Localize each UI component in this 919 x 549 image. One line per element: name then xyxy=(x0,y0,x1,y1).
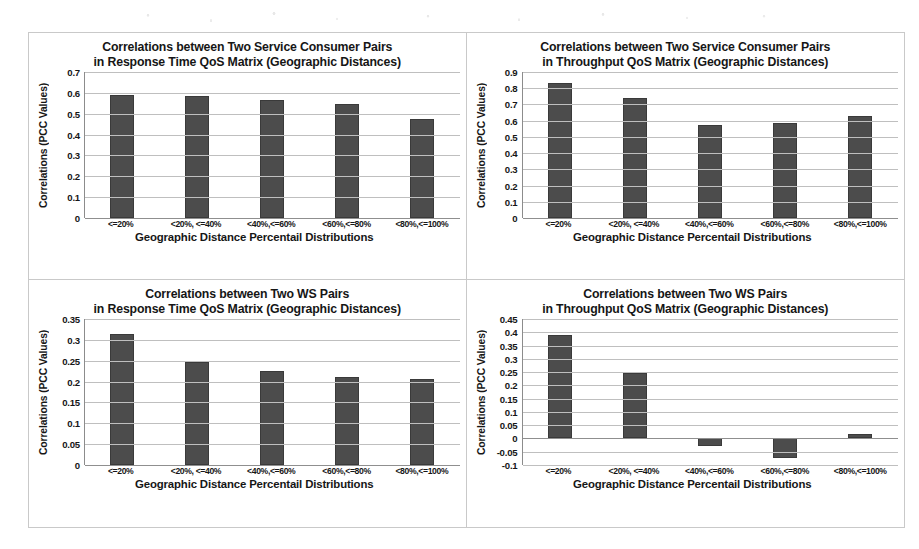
chart-title-line-2: in Response Time QoS Matrix (Geographic … xyxy=(35,55,460,70)
y-axis-tick-label: 0.7 xyxy=(505,99,518,110)
gridline xyxy=(85,423,460,424)
bar-slot xyxy=(748,319,823,465)
bar-slot xyxy=(385,319,460,465)
gridline xyxy=(523,332,899,333)
y-axis-label: Correlations (PCC Values) xyxy=(473,319,488,465)
bar-slot xyxy=(523,319,598,465)
y-axis-tick-label: 0.8 xyxy=(505,83,518,94)
bar[interactable] xyxy=(260,100,284,218)
y-axis-tick-label: 0.5 xyxy=(505,131,518,142)
bar-slot xyxy=(673,72,748,218)
y-axis-tick-label: 0.2 xyxy=(67,171,80,182)
zero-gridline xyxy=(523,218,899,219)
bar-slot xyxy=(85,319,160,465)
bar-slot xyxy=(235,319,310,465)
bar-slot xyxy=(310,72,385,218)
bar[interactable] xyxy=(335,377,359,465)
y-axis-tick-label: 0.25 xyxy=(62,355,80,366)
bar-series xyxy=(523,319,899,465)
y-axis-tick-label: 0.3 xyxy=(505,353,518,364)
bar[interactable] xyxy=(185,362,209,465)
gridline xyxy=(85,176,460,177)
bar[interactable] xyxy=(110,334,134,465)
y-axis-tick-label: 0.1 xyxy=(67,418,80,429)
zero-gridline xyxy=(85,465,460,466)
chart-title-line-1: Correlations between Two WS Pairs xyxy=(473,287,899,302)
gridline xyxy=(523,385,899,386)
bar[interactable] xyxy=(698,438,722,446)
gridline xyxy=(523,372,899,373)
y-axis-label: Correlations (PCC Values) xyxy=(35,319,50,465)
x-axis-tick-label: <40%,<=60% xyxy=(672,466,748,476)
x-axis-tick-label: <60%,<=80% xyxy=(747,219,823,229)
gridline xyxy=(85,155,460,156)
gridline xyxy=(523,425,899,426)
x-axis: <=20%<20%, <=40%<40%,<=60%<60%,<=80%<80%… xyxy=(473,466,899,476)
gridline xyxy=(85,114,460,115)
plot-area xyxy=(84,72,460,218)
chart-title-line-2: in Response Time QoS Matrix (Geographic … xyxy=(35,302,460,317)
bar[interactable] xyxy=(410,379,434,465)
plot-area xyxy=(522,72,899,218)
gridline xyxy=(85,444,460,445)
gridline xyxy=(523,359,899,360)
y-axis-ticks: 0.350.30.250.20.150.10.050 xyxy=(50,319,84,465)
bar-slot xyxy=(160,319,235,465)
gridline xyxy=(85,361,460,362)
gridline xyxy=(523,104,899,105)
bar-slot xyxy=(160,72,235,218)
chart-title-line-1: Correlations between Two Service Consume… xyxy=(35,40,460,55)
x-axis-tick-label: <60%,<=80% xyxy=(309,219,384,229)
chart-title-line-1: Correlations between Two WS Pairs xyxy=(35,287,460,302)
bar[interactable] xyxy=(773,438,797,458)
gridline xyxy=(523,399,899,400)
x-axis-tick-labels: <=20%<20%, <=40%<40%,<=60%<60%,<=80%<80%… xyxy=(521,466,899,476)
bar-slot xyxy=(748,72,823,218)
y-axis-label: Correlations (PCC Values) xyxy=(35,72,50,218)
x-axis-tick-label: <=20% xyxy=(521,466,597,476)
y-axis-tick-label: 0.1 xyxy=(67,192,80,203)
x-axis-tick-label: <20%, <=40% xyxy=(158,219,233,229)
chart-body: Correlations (PCC Values) 0.90.80.70.60.… xyxy=(473,72,899,218)
y-axis-tick-label: -0.05 xyxy=(497,446,518,457)
zero-gridline xyxy=(85,218,460,219)
y-axis-ticks: 0.450.40.350.30.250.20.150.10.050-0.05-0… xyxy=(488,319,522,465)
zero-gridline xyxy=(523,438,899,439)
x-axis-tick-label: <80%,<=100% xyxy=(823,219,899,229)
x-axis-tick-label: <40%,<=60% xyxy=(672,219,748,229)
x-axis-tick-label: <20%, <=40% xyxy=(596,219,672,229)
x-axis-tick-label: <40%,<=60% xyxy=(234,466,309,476)
gridline xyxy=(85,135,460,136)
bar-series xyxy=(85,72,460,218)
gridline xyxy=(523,346,899,347)
x-axis-tick-label: <80%,<=100% xyxy=(384,466,459,476)
gridline xyxy=(523,186,899,187)
y-axis-ticks: 0.90.80.70.60.50.40.30.20.10 xyxy=(488,72,522,218)
gridline xyxy=(523,465,899,466)
bar[interactable] xyxy=(548,335,572,439)
chart-body: Correlations (PCC Values) 0.450.40.350.3… xyxy=(473,319,899,465)
chart-panel-bottom-right: Correlations between Two WS Pairs in Thr… xyxy=(467,280,905,527)
bar[interactable] xyxy=(698,125,722,218)
y-axis-tick-label: 0.05 xyxy=(62,439,80,450)
chart-title: Correlations between Two WS Pairs in Thr… xyxy=(473,287,899,317)
x-axis: <=20%<20%, <=40%<40%,<=60%<60%,<=80%<80%… xyxy=(35,466,460,476)
chart-title-line-2: in Throughput QoS Matrix (Geographic Dis… xyxy=(473,55,899,70)
x-axis-tick-label: <=20% xyxy=(83,219,158,229)
y-axis-tick-label: 0.05 xyxy=(500,420,518,431)
y-axis-tick-label: 0 xyxy=(512,213,517,224)
y-axis-tick-label: 0.2 xyxy=(505,380,518,391)
bar[interactable] xyxy=(335,104,359,218)
y-axis-tick-label: 0 xyxy=(75,213,80,224)
chart-panel-top-right: Correlations between Two Service Consume… xyxy=(467,33,905,280)
y-axis-tick-label: 0 xyxy=(75,460,80,471)
gridline xyxy=(85,382,460,383)
bar-slot xyxy=(823,319,898,465)
bar[interactable] xyxy=(260,371,284,465)
gridline xyxy=(523,137,899,138)
gridline xyxy=(85,402,460,403)
x-axis-tick-label: <60%,<=80% xyxy=(309,466,384,476)
x-axis-tick-labels: <=20%<20%, <=40%<40%,<=60%<60%,<=80%<80%… xyxy=(521,219,899,229)
bar[interactable] xyxy=(623,373,647,439)
bar[interactable] xyxy=(623,98,647,218)
